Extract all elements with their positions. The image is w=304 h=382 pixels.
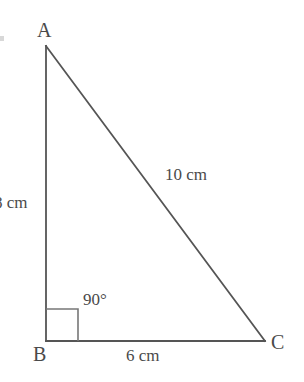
edge-artifact	[0, 36, 4, 41]
side-ac-hypotenuse-line	[46, 46, 265, 341]
vertex-label-a: A	[37, 20, 51, 40]
triangle-svg	[0, 0, 304, 382]
vertex-label-c: C	[271, 332, 284, 352]
angle-label-b: 90°	[83, 291, 107, 308]
side-length-label-ac: 10 cm	[165, 166, 207, 183]
triangle-diagram: A B C 8 cm 10 cm 6 cm 90°	[0, 0, 304, 382]
vertex-label-b: B	[33, 344, 46, 364]
side-length-label-ab: 8 cm	[0, 194, 28, 211]
side-length-label-bc: 6 cm	[126, 347, 160, 364]
right-angle-square-icon	[46, 309, 78, 341]
